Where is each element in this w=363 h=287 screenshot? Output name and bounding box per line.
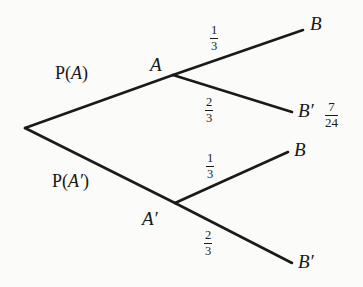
fraction-a-to-b-numerator: 1 bbox=[210, 24, 218, 39]
fraction-a-to-b: 1 3 bbox=[210, 24, 218, 53]
fraction-a-prime-to-b-prime-denominator: 3 bbox=[204, 244, 212, 258]
node-label-a: A bbox=[150, 55, 162, 74]
result-fraction-numerator: 7 bbox=[325, 100, 338, 116]
line-a-prime-to-b bbox=[175, 152, 288, 203]
fraction-a-prime-to-b-numerator: 1 bbox=[206, 152, 214, 167]
fraction-a-to-b-denominator: 3 bbox=[210, 39, 218, 53]
tree-branch-lines bbox=[0, 0, 363, 287]
p-a-argument: A bbox=[71, 63, 82, 83]
p-a-prime-argument: A′ bbox=[68, 171, 83, 191]
endpoint-label-b-prime-bottom: B′ bbox=[298, 252, 314, 271]
line-root-to-a-prime bbox=[25, 128, 175, 203]
fraction-a-to-b-prime: 2 3 bbox=[205, 96, 213, 125]
fraction-a-prime-to-b: 1 3 bbox=[206, 152, 214, 181]
fraction-a-prime-to-b-prime-numerator: 2 bbox=[204, 229, 212, 244]
line-a-to-b bbox=[173, 30, 303, 75]
p-a-suffix: ) bbox=[82, 63, 88, 83]
p-a-prime-prefix: P( bbox=[52, 171, 68, 191]
fraction-a-to-b-prime-numerator: 2 bbox=[205, 96, 213, 111]
p-a-prefix: P( bbox=[55, 63, 71, 83]
line-a-to-b-prime bbox=[173, 75, 292, 112]
branch-label-p-a-prime: P(A′) bbox=[52, 172, 89, 190]
result-fraction-annotation: 7 24 bbox=[325, 100, 338, 130]
node-label-a-prime: A′ bbox=[142, 209, 158, 228]
probability-tree-diagram: P(A) P(A′) A A′ B B′ B B′ 1 3 2 3 1 3 2 … bbox=[0, 0, 363, 287]
line-a-prime-to-b-prime bbox=[175, 203, 292, 263]
endpoint-label-b-top: B bbox=[310, 14, 322, 33]
fraction-a-prime-to-b-prime: 2 3 bbox=[204, 229, 212, 258]
endpoint-label-b-lower: B bbox=[294, 140, 306, 159]
line-root-to-a bbox=[25, 75, 173, 128]
branch-label-p-a: P(A) bbox=[55, 64, 88, 82]
endpoint-label-b-prime-upper: B′ bbox=[298, 101, 314, 120]
p-a-prime-suffix: ) bbox=[83, 171, 89, 191]
fraction-a-prime-to-b-denominator: 3 bbox=[206, 167, 214, 181]
fraction-a-to-b-prime-denominator: 3 bbox=[205, 111, 213, 125]
result-fraction-denominator: 24 bbox=[325, 116, 338, 131]
